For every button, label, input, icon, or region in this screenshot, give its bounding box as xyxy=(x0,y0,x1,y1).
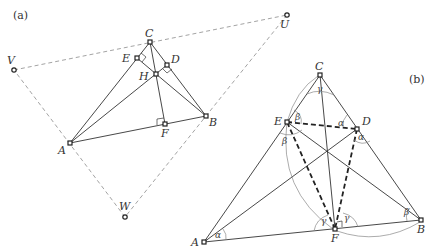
angle-gamma-c: γ xyxy=(317,84,323,94)
angle-alpha-d-top: α xyxy=(338,118,344,128)
label-b-C: C xyxy=(315,60,324,73)
angle-beta-b: β xyxy=(403,207,409,217)
panel-a-tag: (a) xyxy=(13,9,28,22)
label-a-V: V xyxy=(7,54,16,67)
angle-beta-e-top: β xyxy=(294,112,300,122)
angle-beta-e-low: β xyxy=(281,136,287,146)
figure: (a) C E D H B F A V U W xyxy=(0,0,433,251)
panel-a: (a) C E D H B F A V U W xyxy=(7,9,290,219)
points-a xyxy=(12,13,289,219)
label-a-B: B xyxy=(208,116,217,129)
label-a-U: U xyxy=(280,18,290,31)
angle-gamma-f-right: γ xyxy=(344,213,350,223)
label-a-E: E xyxy=(121,52,130,65)
label-b-B: B xyxy=(416,223,425,236)
angle-alpha-d-low: α xyxy=(358,132,364,142)
label-b-A: A xyxy=(190,236,199,249)
label-a-W: W xyxy=(119,200,132,213)
panel-b-tag: (b) xyxy=(409,73,425,86)
diagram-canvas: (a) C E D H B F A V U W xyxy=(0,0,433,251)
label-a-A: A xyxy=(57,144,66,157)
label-a-F: F xyxy=(160,127,169,140)
label-a-H: H xyxy=(138,70,149,83)
label-b-D: D xyxy=(361,115,371,128)
points-b xyxy=(202,73,423,244)
label-b-F: F xyxy=(330,232,339,245)
label-a-D: D xyxy=(170,53,180,66)
angle-alpha-a: α xyxy=(215,230,221,240)
label-a-C: C xyxy=(145,27,154,40)
right-angle-marker-f xyxy=(337,221,342,227)
panel-b: (b) C E D B F A γ β α β α α β γ γ xyxy=(190,60,425,249)
label-b-E: E xyxy=(273,115,282,128)
angle-gamma-f-left: γ xyxy=(321,216,327,226)
triangle-abc-b xyxy=(204,75,421,242)
